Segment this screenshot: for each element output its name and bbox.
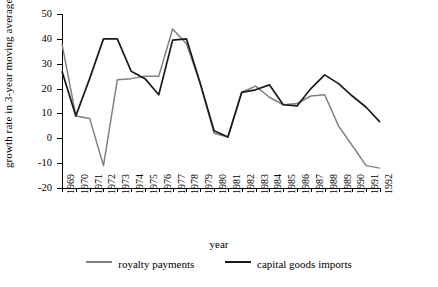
series-lines <box>62 14 380 189</box>
legend-swatch-royalty-payments <box>86 261 112 263</box>
legend-swatch-capital-goods-imports <box>225 261 251 263</box>
chart-legend: royalty payments capital goods imports <box>0 256 438 270</box>
series-line-royalty-payments <box>62 29 380 168</box>
y-tick-label: 10 <box>12 108 52 118</box>
series-line-capital-goods-imports <box>62 39 380 137</box>
y-tick-label: -10 <box>12 158 52 168</box>
legend-label-royalty-payments: royalty payments <box>118 258 194 270</box>
plot-area <box>62 14 380 188</box>
y-tick-label: 30 <box>12 59 52 69</box>
y-tick-label: -20 <box>12 183 52 193</box>
y-tick-label: 20 <box>12 84 52 94</box>
chart-container: growth rate in 3-year moving average, % … <box>0 0 438 287</box>
y-tick-label: 40 <box>12 34 52 44</box>
x-tick-label: 1992 <box>384 174 394 194</box>
legend-item-royalty-payments: royalty payments <box>86 257 194 270</box>
legend-item-capital-goods-imports: capital goods imports <box>225 257 352 270</box>
x-axis-title: year <box>0 238 438 250</box>
x-tick <box>380 188 381 192</box>
legend-label-capital-goods-imports: capital goods imports <box>257 258 352 270</box>
y-tick-label: 50 <box>12 9 52 19</box>
y-tick-label: 0 <box>12 133 52 143</box>
